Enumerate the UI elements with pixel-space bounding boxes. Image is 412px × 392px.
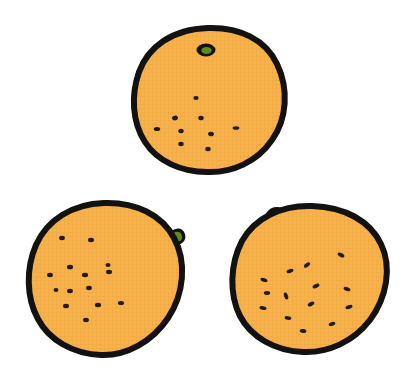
oranges-svg [0, 0, 412, 392]
peel-speck [178, 142, 183, 146]
peel-speck [83, 318, 89, 322]
peel-speck [178, 129, 183, 133]
peel-speck [193, 96, 198, 100]
peel-speck [86, 286, 92, 290]
peel-speck [67, 265, 73, 270]
peel-speck [88, 238, 94, 242]
peel-speck [95, 303, 101, 307]
peel-speck [118, 301, 124, 305]
bottom-right-orange-peel [232, 206, 387, 352]
peel-speck [59, 236, 65, 240]
bottom-left-orange-peel [29, 203, 182, 355]
bottom-right-orange[interactable] [232, 206, 387, 352]
peel-speck [233, 126, 240, 130]
peel-speck [82, 273, 88, 277]
peel-speck [106, 263, 111, 267]
peel-speck [54, 288, 59, 292]
peel-speck [264, 291, 270, 295]
peel-speck [205, 147, 210, 151]
peel-speck [47, 273, 53, 277]
peel-speck [63, 304, 69, 308]
peel-speck [154, 127, 160, 131]
stem-top-icon [197, 44, 216, 57]
peel-speck [67, 289, 73, 293]
top-orange[interactable] [134, 28, 285, 172]
illustration-canvas: Three hand-drawn oranges [0, 0, 412, 392]
peel-speck [106, 270, 112, 274]
